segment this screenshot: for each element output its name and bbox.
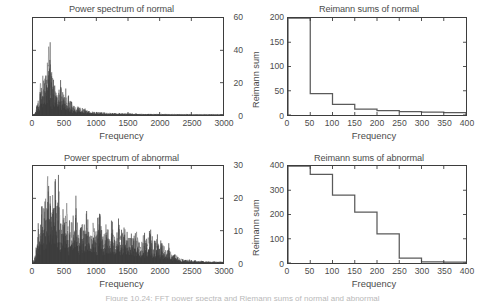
y-tick-label: 10 (213, 226, 243, 236)
x-tick-label: 150 (347, 118, 361, 128)
y-tick-label: 20 (213, 193, 243, 203)
panel-title: Reimann sums of normal (253, 4, 485, 14)
y-tick-label: 30 (213, 160, 243, 170)
x-tick-label: 2000 (150, 118, 169, 128)
x-tick-label: 1000 (86, 118, 105, 128)
x-tick-label: 1500 (118, 266, 137, 276)
y-tick-label: 50 (243, 86, 284, 96)
x-tick-label: 500 (57, 266, 71, 276)
x-axis-label: Frequency (263, 130, 485, 141)
x-axis-label: Frequency (0, 278, 243, 289)
y-axis-label: Reimann sum (251, 199, 261, 256)
x-tick-label: 250 (392, 266, 406, 276)
x-tick-label: 350 (437, 118, 451, 128)
x-tick-label: 50 (305, 266, 315, 276)
x-tick-label: 0 (285, 266, 290, 276)
y-tick-label: 150 (243, 37, 284, 47)
plot-area-power-spectrum-abnormal (32, 165, 224, 264)
panel-reimann-sums-normal: Reimann sums of normal Reimann sum 0 50 … (243, 0, 485, 148)
y-tick-label: 100 (243, 234, 284, 244)
y-tick-label: 200 (243, 209, 284, 219)
x-tick-label: 150 (347, 266, 361, 276)
x-tick-label: 250 (392, 118, 406, 128)
cut-off-caption: Figure 10.24: FFT power spectra and Riem… (0, 294, 485, 301)
y-tick-label: 60 (213, 12, 243, 22)
x-tick-label: 1500 (118, 118, 137, 128)
y-tick-label: 200 (243, 12, 284, 22)
x-tick-label: 300 (415, 266, 429, 276)
panel-reimann-sums-abnormal: Reimann sums of abnormal Reimann sum 0 1… (243, 148, 485, 301)
figure-four-panel-plots: Power spectrum of normal 0 20 40 60 0 50… (0, 0, 485, 301)
y-tick-label: 400 (243, 160, 284, 170)
x-tick-label: 3000 (214, 118, 233, 128)
x-tick-label: 350 (437, 266, 451, 276)
x-axis-label: Frequency (0, 130, 243, 141)
panel-title: Reimann sums of abnormal (253, 153, 485, 163)
x-tick-label: 0 (285, 118, 290, 128)
x-tick-label: 100 (325, 118, 339, 128)
y-tick-label: 0 (243, 111, 284, 121)
plot-area-reimann-sums-normal (287, 17, 467, 116)
plot-area-reimann-sums-abnormal (287, 165, 467, 264)
y-tick-label: 0 (243, 259, 284, 269)
x-tick-label: 400 (460, 118, 474, 128)
x-tick-label: 200 (370, 266, 384, 276)
x-tick-label: 2500 (182, 118, 201, 128)
x-tick-label: 100 (325, 266, 339, 276)
x-tick-label: 2000 (150, 266, 169, 276)
x-tick-label: 1000 (86, 266, 105, 276)
x-tick-label: 2500 (182, 266, 201, 276)
panel-title: Power spectrum of abnormal (0, 153, 243, 163)
plot-area-power-spectrum-normal (32, 17, 224, 116)
y-tick-label: 100 (243, 61, 284, 71)
y-tick-label: 40 (213, 45, 243, 55)
y-tick-label: 300 (243, 185, 284, 195)
x-tick-label: 500 (57, 118, 71, 128)
x-tick-label: 400 (460, 266, 474, 276)
panel-power-spectrum-abnormal: Power spectrum of abnormal 0 10 20 30 0 … (0, 148, 243, 301)
x-tick-label: 0 (30, 118, 35, 128)
y-tick-label: 20 (213, 78, 243, 88)
panel-title: Power spectrum of normal (0, 4, 243, 14)
x-tick-label: 50 (305, 118, 315, 128)
x-tick-label: 3000 (214, 266, 233, 276)
y-axis-label: Reimann sum (251, 51, 261, 108)
x-axis-label: Frequency (263, 278, 485, 289)
x-tick-label: 200 (370, 118, 384, 128)
x-tick-label: 0 (30, 266, 35, 276)
x-tick-label: 300 (415, 118, 429, 128)
panel-power-spectrum-normal: Power spectrum of normal 0 20 40 60 0 50… (0, 0, 243, 148)
